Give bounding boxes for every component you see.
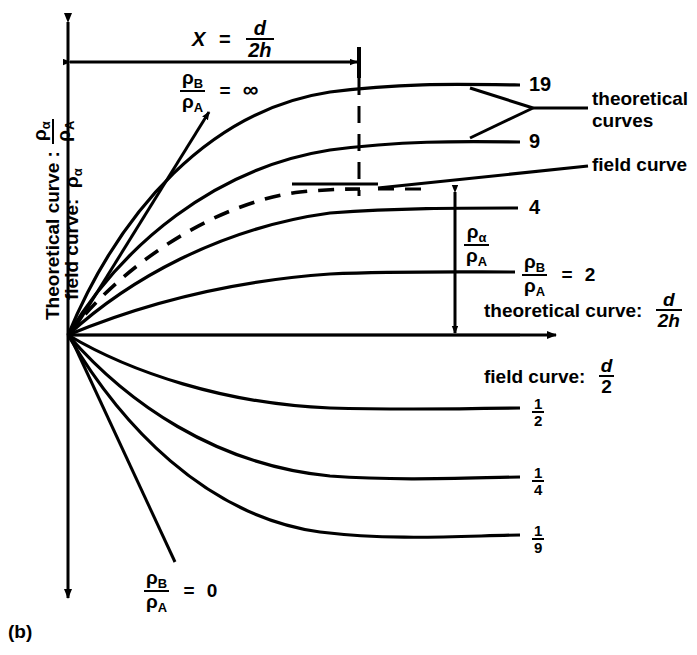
infinity-equals: =	[219, 80, 230, 101]
ratio-fraction-infinity: ρB ρA	[180, 68, 205, 114]
two-value: 2	[585, 264, 596, 285]
curve-label-one-quarter: 1 4	[530, 465, 546, 498]
curve-label-19: 19	[529, 74, 551, 94]
num: 1	[532, 465, 544, 480]
zero-equals: =	[183, 580, 194, 601]
rhoA: ρ	[146, 591, 158, 612]
ratio-infinity-label: ρB ρA = ∞	[178, 68, 258, 114]
leader-ratio-infinity	[70, 112, 209, 336]
two-equals: =	[561, 264, 572, 285]
curve-label-one-ninth: 1 9	[530, 523, 546, 556]
rho-den: ρ	[53, 130, 74, 142]
ratio-fraction-zero: ρB ρA	[144, 568, 169, 614]
y-axis-field-text: field curve:	[61, 199, 82, 300]
leader-field-curve	[378, 166, 588, 188]
x-axis-field-label: field curve: d 2	[484, 356, 616, 397]
figure-two-layer-master-curves: Theoretical curve : ρα ρA field curve: ρ…	[0, 0, 697, 655]
rhoB: ρ	[524, 251, 536, 272]
curve-label-4: 4	[529, 197, 540, 217]
callout-theoretical-curves: theoretical curves	[592, 88, 688, 133]
ratio-zero-label: ρB ρA = 0	[142, 568, 217, 614]
den: 2h	[656, 309, 682, 330]
curve-2	[68, 272, 515, 335]
fraction-one-half: 1 2	[532, 396, 544, 429]
curve-label-9: 9	[529, 131, 540, 151]
x-span-label: X = d 2h	[192, 18, 276, 61]
x-axis-theoretical-label: theoretical curve: d 2h	[484, 290, 684, 331]
x-axis-theoretical-text: theoretical curve:	[484, 300, 642, 321]
x-span-num: d	[246, 18, 273, 38]
rho-A-sub: A	[478, 253, 487, 268]
x-axis-theoretical-fraction: d 2h	[656, 290, 682, 331]
theoretical-curves-upper	[68, 84, 520, 335]
fraction-one-ninth: 1 9	[532, 523, 544, 556]
num: d	[599, 356, 615, 375]
den: 4	[532, 480, 544, 497]
den: 2	[532, 411, 544, 428]
curve-label-one-half: 1 2	[530, 396, 546, 429]
rho-sym-sub: α	[70, 168, 85, 176]
theoretical-curves-line-2: curves	[592, 110, 688, 132]
y-axis-field-symbol: ρα	[61, 168, 82, 193]
num: d	[656, 290, 682, 309]
x-axis-field-fraction: d 2	[599, 356, 615, 397]
rhoB: ρ	[182, 67, 194, 88]
x-span-fraction: d 2h	[246, 18, 273, 61]
x-equals: =	[219, 28, 231, 50]
rho-A: ρ	[466, 245, 478, 266]
rhoB-sub: B	[536, 260, 545, 275]
y-axis-theoretical-fraction: ρα ρA	[30, 119, 76, 144]
callout-field-curve: field curve	[592, 155, 687, 174]
rhoA: ρ	[182, 91, 194, 112]
rho-num: ρ	[29, 129, 50, 141]
rho-a: ρ	[467, 221, 479, 242]
x-axis-field-text: field curve:	[484, 366, 585, 387]
figure-caption: (b)	[8, 622, 32, 641]
infinity-value: ∞	[243, 77, 259, 102]
curve-9	[68, 142, 520, 335]
theoretical-curves-lower	[68, 335, 520, 537]
rho-num-sub: α	[38, 121, 53, 129]
theoretical-curves-line-1: theoretical	[592, 88, 688, 110]
rho-ratio-measure-fraction: ρα ρA	[464, 222, 489, 268]
rho-ratio-measure-label: ρα ρA	[462, 222, 491, 268]
fraction-one-quarter: 1 4	[532, 465, 544, 498]
y-axis-field-label: field curve: ρα	[62, 168, 85, 300]
zero-value: 0	[207, 580, 218, 601]
curve-field-dashed	[68, 189, 360, 335]
rho-den-sub: A	[61, 121, 76, 130]
x-symbol: X	[192, 28, 205, 50]
den: 9	[532, 538, 544, 555]
rhoB-sub: B	[158, 576, 167, 591]
rhoB-sub: B	[194, 76, 203, 91]
num: 1	[532, 523, 544, 538]
num: 1	[532, 396, 544, 411]
den: 2	[599, 375, 615, 396]
rho-sym: ρ	[61, 176, 82, 188]
curve-ninth	[68, 335, 520, 537]
x-span-den: 2h	[246, 38, 273, 60]
rhoA-sub: A	[194, 99, 203, 114]
rhoB: ρ	[146, 567, 158, 588]
rho-a-sub: α	[478, 230, 486, 245]
rhoA-sub: A	[158, 599, 167, 614]
